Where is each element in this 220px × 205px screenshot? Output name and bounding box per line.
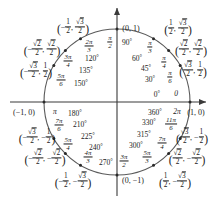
degree-label-180: 180° — [68, 109, 82, 118]
radian-label-120: 2π3 — [85, 38, 94, 53]
radian-label-360: 2π — [173, 108, 181, 116]
point-0 — [189, 101, 192, 104]
degree-label-270: 270° — [99, 158, 113, 167]
point-45 — [167, 49, 170, 52]
coordinate-label-210: (−√32, −12) — [19, 127, 56, 144]
degree-label-315: 315° — [137, 130, 151, 139]
coordinate-label-225: (−√22, −√22) — [24, 148, 65, 165]
unit-circle-figure: (1, 0) (−1, 0) (0, 1) (0, −1) 0° 0 30° π… — [0, 0, 220, 205]
axis-label-bottom: (0, −1) — [122, 177, 144, 185]
radian-label-45: π4 — [161, 54, 166, 69]
axis-label-left: (−1, 0) — [13, 109, 35, 117]
coordinate-label-120: (−12, √32) — [57, 17, 89, 34]
coordinate-label-60: (12, √32) — [164, 18, 192, 35]
radian-label-315: 7π4 — [158, 135, 167, 150]
degree-label-330: 330° — [142, 118, 156, 127]
point-180 — [43, 101, 46, 104]
radian-label-60: π3 — [147, 39, 152, 54]
coordinate-label-30: (√32, 12) — [179, 60, 207, 77]
degree-label-120: 120° — [85, 54, 99, 63]
radian-label-0: 0 — [174, 90, 178, 98]
radian-label-90: π2 — [107, 34, 112, 49]
radian-label-270: 3π2 — [120, 153, 129, 168]
radian-label-240: 4π3 — [84, 149, 93, 164]
degree-label-60: 60° — [132, 54, 142, 63]
point-270 — [116, 174, 119, 177]
point-150 — [52, 64, 55, 67]
x-axis-arrowhead — [199, 99, 206, 105]
axis-label-right: (1, 0) — [187, 109, 204, 117]
coordinate-label-135: (−√22, √22) — [24, 39, 61, 56]
point-120 — [79, 37, 82, 40]
coordinate-label-315: (√22, −√22) — [169, 148, 206, 165]
radian-label-180: π — [53, 108, 57, 116]
point-135 — [64, 49, 67, 52]
degree-label-300: 300° — [129, 141, 143, 150]
coordinate-label-330: (√32, −12) — [176, 127, 208, 144]
coordinate-label-45: (√22, √22) — [175, 39, 207, 56]
degree-label-0: 0° — [154, 90, 160, 99]
coordinate-label-300: (12, −√32) — [159, 171, 191, 188]
radian-label-30: π6 — [167, 69, 172, 84]
axis-label-top: (0, 1) — [122, 25, 139, 33]
coordinate-label-150: (−√32, 12) — [20, 61, 52, 78]
radian-label-135: 3π4 — [64, 53, 73, 68]
degree-label-150: 150° — [74, 79, 88, 88]
point-300 — [152, 164, 155, 167]
radian-label-210: 7π6 — [55, 117, 64, 132]
point-240 — [79, 164, 82, 167]
degree-label-360: 360° — [148, 108, 162, 117]
radian-label-300: 5π3 — [143, 149, 152, 164]
degree-label-30: 30° — [145, 75, 155, 84]
degree-label-135: 135° — [79, 66, 93, 75]
degree-label-225: 225° — [81, 132, 95, 141]
radian-label-150: 5π6 — [57, 72, 66, 87]
coordinate-label-240: (−12, −√32) — [55, 171, 92, 188]
degree-label-45: 45° — [141, 64, 151, 73]
degree-label-210: 210° — [73, 120, 87, 129]
point-90 — [116, 28, 119, 31]
y-axis-arrowhead — [114, 8, 120, 15]
degree-label-90: 90° — [122, 38, 132, 47]
